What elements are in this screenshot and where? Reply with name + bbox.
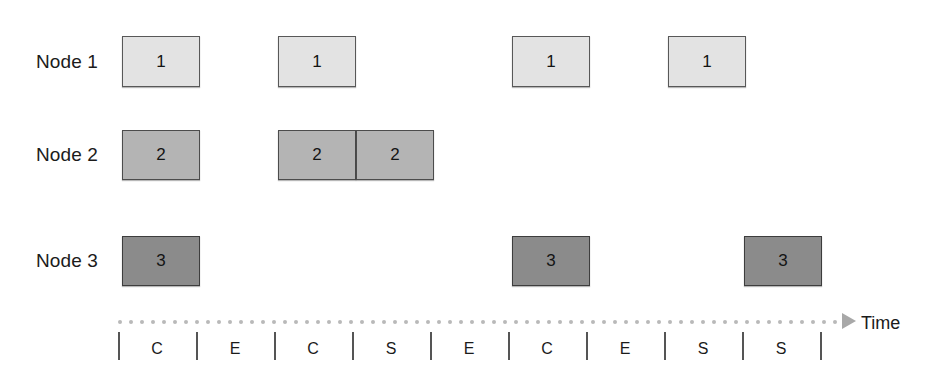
axis-dot: [129, 320, 133, 324]
axis-slot-label-2: E: [230, 340, 241, 358]
axis-dot: [239, 320, 243, 324]
axis-dot: [360, 320, 364, 324]
axis-tick-9: [742, 332, 744, 360]
axis-dot: [635, 320, 639, 324]
axis-slot-label-7: E: [620, 340, 631, 358]
axis-tick-2: [196, 332, 198, 360]
axis-dot: [558, 320, 562, 324]
task-box-node-1-2: 1: [278, 36, 356, 87]
axis-dot: [382, 320, 386, 324]
axis-dot: [525, 320, 529, 324]
task-box-node-2-1: 2: [122, 130, 200, 180]
task-box-node-1-1: 1: [122, 36, 200, 87]
axis-slot-label-4: S: [386, 340, 397, 358]
axis-dot: [206, 320, 210, 324]
axis-dot: [228, 320, 232, 324]
axis-dot: [426, 320, 430, 324]
axis-tick-5: [430, 332, 432, 360]
node-row-label-1: Node 1: [36, 51, 118, 73]
axis-dot: [294, 320, 298, 324]
node-row-label-3: Node 3: [36, 250, 118, 272]
axis-dot: [646, 320, 650, 324]
axis-tick-1: [118, 332, 120, 360]
axis-slot-label-3: C: [307, 340, 319, 358]
axis-dot: [448, 320, 452, 324]
axis-dot: [767, 320, 771, 324]
task-box-node-1-3: 1: [512, 36, 590, 87]
axis-dot: [701, 320, 705, 324]
axis-dot: [371, 320, 375, 324]
axis-dot: [745, 320, 749, 324]
axis-dot: [580, 320, 584, 324]
task-box-node-3-2: 3: [512, 236, 590, 286]
axis-dot: [712, 320, 716, 324]
axis-label-time: Time: [861, 313, 900, 334]
axis-dot: [657, 320, 661, 324]
axis-dot: [789, 320, 793, 324]
axis-tick-10: [820, 332, 822, 360]
timeline-diagram: Node 1 Node 2 Node 3 1111222333 CECSECES…: [0, 0, 943, 377]
axis-dot: [195, 320, 199, 324]
axis-slot-label-1: C: [151, 340, 163, 358]
axis-dot: [492, 320, 496, 324]
task-box-node-2-2: 2: [278, 130, 356, 180]
axis-tick-3: [274, 332, 276, 360]
axis-dot: [514, 320, 518, 324]
axis-slot-label-8: S: [698, 340, 709, 358]
axis-dot: [338, 320, 342, 324]
task-box-node-2-3: 2: [356, 130, 434, 180]
axis-dot: [327, 320, 331, 324]
axis-dot: [349, 320, 353, 324]
axis-dot: [261, 320, 265, 324]
axis-dot: [679, 320, 683, 324]
axis-dot: [283, 320, 287, 324]
axis-dot: [162, 320, 166, 324]
axis-dot: [415, 320, 419, 324]
axis-dot: [569, 320, 573, 324]
axis-dot: [591, 320, 595, 324]
axis-dot: [459, 320, 463, 324]
axis-dot: [833, 320, 837, 324]
axis-slot-label-6: C: [541, 340, 553, 358]
axis-tick-6: [508, 332, 510, 360]
task-box-node-3-3: 3: [744, 236, 822, 286]
axis-dot: [272, 320, 276, 324]
axis-dot: [536, 320, 540, 324]
axis-dot: [305, 320, 309, 324]
axis-dot: [734, 320, 738, 324]
triangle-right-icon: [842, 313, 856, 329]
axis-dot: [217, 320, 221, 324]
task-box-node-1-4: 1: [668, 36, 746, 87]
axis-dot: [602, 320, 606, 324]
axis-dot: [481, 320, 485, 324]
axis-dot: [800, 320, 804, 324]
axis-dot: [668, 320, 672, 324]
axis-dot: [184, 320, 188, 324]
axis-dot: [118, 320, 122, 324]
axis-dot: [690, 320, 694, 324]
axis-dot: [822, 320, 826, 324]
axis-dot: [140, 320, 144, 324]
axis-tick-8: [664, 332, 666, 360]
axis-dot: [173, 320, 177, 324]
axis-dot: [778, 320, 782, 324]
axis-dot: [404, 320, 408, 324]
node-row-label-2: Node 2: [36, 144, 118, 166]
axis-dot: [393, 320, 397, 324]
axis-dot: [151, 320, 155, 324]
axis-dot: [624, 320, 628, 324]
axis-dot: [503, 320, 507, 324]
axis-slot-label-9: S: [776, 340, 787, 358]
axis-dot: [470, 320, 474, 324]
axis-dot: [756, 320, 760, 324]
axis-dot: [437, 320, 441, 324]
axis-dot: [811, 320, 815, 324]
task-box-node-3-1: 3: [122, 236, 200, 286]
axis-dot: [613, 320, 617, 324]
axis-dot: [723, 320, 727, 324]
axis-dot: [547, 320, 551, 324]
axis-dot: [250, 320, 254, 324]
axis-dot: [316, 320, 320, 324]
axis-tick-4: [352, 332, 354, 360]
axis-tick-7: [586, 332, 588, 360]
